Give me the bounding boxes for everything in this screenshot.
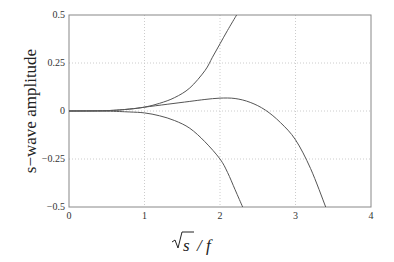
x-tick-label: 1 — [142, 210, 147, 221]
y-axis-label: s−wave amplitude — [21, 49, 40, 173]
x-axis-label-s: s — [183, 236, 190, 255]
chart: 01234 0.50.250−0.25−0.5 s−wave amplitude… — [0, 0, 394, 262]
x-tick-label: 4 — [369, 210, 374, 221]
series-line-upper — [69, 15, 237, 111]
y-tick-label: 0.5 — [53, 9, 66, 20]
y-tick-label: −0.5 — [47, 201, 65, 212]
x-tick-label: 0 — [67, 210, 72, 221]
x-tick-label: 3 — [293, 210, 298, 221]
y-tick-labels: 0.50.250−0.25−0.5 — [42, 9, 65, 212]
data-series — [69, 15, 326, 207]
y-tick-label: 0 — [60, 105, 65, 116]
y-tick-label: 0.25 — [48, 57, 66, 68]
x-axis-label: s / f — [172, 232, 213, 255]
x-tick-label: 2 — [218, 210, 223, 221]
x-tick-labels: 01234 — [67, 210, 374, 221]
y-tick-label: −0.25 — [42, 153, 65, 164]
series-line-middle — [69, 98, 326, 207]
x-axis-label-rest: / f — [196, 236, 213, 255]
